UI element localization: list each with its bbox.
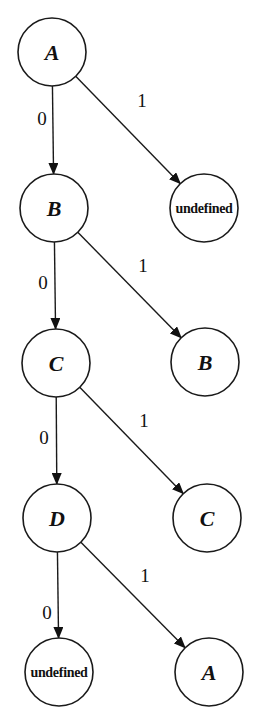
node-label: A — [43, 40, 60, 65]
state-node: A — [175, 638, 243, 706]
edge-arrow-1 — [78, 232, 181, 337]
state-node: A — [18, 18, 86, 86]
state-node: C — [173, 484, 241, 552]
state-node: B — [171, 328, 239, 396]
edge-arrow-0 — [56, 397, 57, 484]
state-diagram: ABundefinedCBDCundefinedA 01010101 — [0, 0, 256, 726]
state-node: undefined — [25, 638, 93, 706]
edge-label: 1 — [139, 410, 149, 431]
nodes: ABundefinedCBDCundefinedA — [18, 18, 243, 706]
node-label: C — [200, 506, 215, 531]
edge-label: 0 — [37, 108, 47, 129]
state-node: B — [20, 174, 88, 242]
edge-arrow-0 — [52, 86, 53, 174]
edge-label: 0 — [38, 272, 48, 293]
node-label: B — [197, 350, 213, 375]
state-node: D — [23, 484, 91, 552]
node-label: B — [46, 196, 62, 221]
node-label: A — [200, 660, 217, 685]
node-label: D — [48, 506, 65, 531]
edge-arrow-1 — [76, 76, 181, 183]
node-label: undefined — [30, 665, 88, 680]
edge-arrow-1 — [80, 387, 184, 493]
node-label: undefined — [175, 201, 233, 216]
edge-label: 0 — [42, 602, 52, 623]
state-node: C — [22, 329, 90, 397]
edge-arrow-1 — [81, 542, 185, 648]
edge-label: 1 — [140, 565, 150, 586]
edge-arrow-0 — [57, 552, 58, 638]
state-node: undefined — [170, 174, 238, 242]
edge-label: 0 — [39, 427, 49, 448]
edge-label: 1 — [137, 90, 147, 111]
node-label: C — [49, 351, 64, 376]
edge-arrow-0 — [54, 242, 55, 329]
edge-label: 1 — [138, 255, 148, 276]
